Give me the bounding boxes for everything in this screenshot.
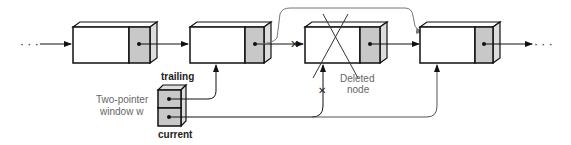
node-3-deleted — [305, 14, 387, 78]
node-4 — [420, 22, 500, 63]
window-label-1: Two-pointer — [96, 94, 149, 105]
current-label: current — [158, 129, 193, 140]
two-pointer-window — [158, 85, 186, 126]
ellipsis-left: · · · — [20, 37, 39, 51]
node-2 — [190, 22, 271, 63]
deleted-label-1: Deleted — [340, 73, 374, 84]
linked-list-diagram: · · · ✕ Deleted node — [0, 0, 571, 145]
window-label-2: window w — [99, 106, 144, 117]
cut-mark-2: ✕ — [318, 85, 326, 96]
cut-mark-1: ✕ — [290, 38, 299, 50]
node-1 — [73, 22, 157, 63]
ellipsis-right: · · · — [534, 37, 553, 51]
current-new-link — [312, 65, 437, 117]
deleted-label-2: node — [347, 84, 370, 95]
trailing-label: trailing — [161, 71, 194, 82]
